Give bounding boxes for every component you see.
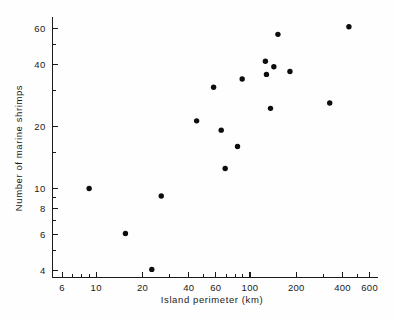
x-tick-label: 600 (361, 282, 378, 293)
y-axis-title: Number of marine shrimps (13, 85, 24, 211)
data-point (86, 186, 91, 191)
data-point (275, 32, 280, 37)
y-tick-label: 60 (34, 23, 45, 34)
y-tick-label: 4 (40, 265, 46, 276)
data-point (159, 193, 164, 198)
y-tick-label: 40 (34, 59, 45, 70)
y-tick-label: 20 (34, 121, 45, 132)
x-tick-label: 40 (183, 282, 194, 293)
data-point (219, 127, 224, 132)
data-point (264, 72, 269, 77)
x-tick-label: 6 (59, 282, 65, 293)
x-tick-label: 200 (288, 282, 305, 293)
x-tick-label: 10 (91, 282, 102, 293)
data-points-group (86, 24, 351, 272)
y-tick-label: 8 (40, 203, 46, 214)
data-point (287, 69, 292, 74)
x-tick-label: 100 (242, 282, 259, 293)
data-point (327, 100, 332, 105)
data-point (222, 166, 227, 171)
data-point (346, 24, 351, 29)
data-point (268, 106, 273, 111)
data-point (194, 118, 199, 123)
data-point (211, 85, 216, 90)
y-tick-label: 10 (34, 183, 45, 194)
tick-labels-group: 61020406010020040060046810204060 (34, 23, 378, 293)
data-point (235, 144, 240, 149)
x-tick-label: 400 (334, 282, 351, 293)
plot-canvas: 61020406010020040060046810204060 Island … (0, 0, 395, 319)
axis-spine (53, 17, 379, 278)
data-point (239, 76, 244, 81)
x-axis-title: Island perimeter (km) (161, 294, 263, 305)
data-point (263, 58, 268, 63)
x-tick-label: 20 (137, 282, 148, 293)
x-tick-label: 60 (210, 282, 221, 293)
data-point (149, 267, 154, 272)
y-tick-label: 6 (40, 229, 46, 240)
axes-group (53, 17, 379, 278)
data-point (123, 231, 128, 236)
data-point (271, 64, 276, 69)
scatter-plot-figure: 61020406010020040060046810204060 Island … (0, 0, 395, 319)
ticks-group (53, 28, 370, 277)
